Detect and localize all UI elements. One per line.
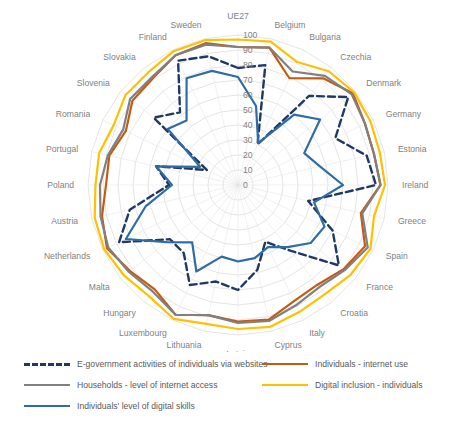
category-label-portugal: Portugal [46,144,78,154]
category-label-luxembourg: Luxembourg [119,328,167,338]
category-label-ue27: UE27 [227,11,249,21]
category-label-romania: Romania [56,109,91,119]
category-label-croatia: Croatia [340,308,368,318]
category-label-malta: Malta [89,282,110,292]
chart-legend: E-government activities of individuals v… [0,352,453,427]
r-axis-tick-label: 60 [243,90,253,100]
r-axis-tick-label: 0 [243,180,248,190]
legend-item-3[interactable]: Digital inclusion - individuals [262,381,422,390]
grid-spoke [121,91,238,185]
series-line-4 [126,71,343,272]
legend-label: Digital inclusion - individuals [315,381,422,390]
category-label-slovenia: Slovenia [77,78,110,88]
legend-swatch-icon [24,384,70,386]
category-label-slovakia: Slovakia [103,52,136,62]
category-label-italy: Italy [309,328,325,338]
category-label-poland: Poland [47,180,74,190]
category-label-sweden: Sweden [170,20,201,30]
grid-spoke [121,185,238,279]
legend-swatch-icon [24,363,70,366]
r-axis-tick-label: 30 [243,135,253,145]
category-label-france: France [366,282,393,292]
legend-label: Individuals - internet use [315,360,408,369]
category-label-bulgaria: Bulgaria [309,32,341,42]
legend-item-0[interactable]: E-government activities of individuals v… [24,360,268,369]
legend-item-1[interactable]: Individuals - internet use [262,360,408,369]
r-axis-tick-label: 40 [243,120,253,130]
r-axis-tick-label: 70 [243,75,253,85]
radar-svg: 0102030405060708090100UE27SwedenFinlandS… [0,0,453,352]
legend-label: E-government activities of individuals v… [77,360,268,369]
legend-label: Individuals' level of digital skills [77,402,195,411]
r-axis-tick-label: 10 [243,165,253,175]
category-label-austria: Austria [51,216,78,226]
category-label-estonia: Estonia [398,144,427,154]
category-label-greece: Greece [398,216,426,226]
legend-item-2[interactable]: Households - level of internet access [24,381,217,390]
legend-item-4[interactable]: Individuals' level of digital skills [24,402,195,411]
category-label-finland: Finland [139,32,167,42]
legend-swatch-icon [262,363,308,365]
r-axis-tick-label: 80 [243,60,253,70]
category-label-czechia: Czechia [340,52,371,62]
r-axis-tick-label: 20 [243,150,253,160]
category-label-germany: Germany [386,109,422,119]
category-label-lithuania: Lithuania [167,340,202,350]
category-label-cyprus: Cyprus [274,340,301,350]
grid-spoke [238,152,384,185]
legend-swatch-icon [24,405,70,407]
radar-chart-figure: 0102030405060708090100UE27SwedenFinlandS… [0,0,453,427]
legend-swatch-icon [262,384,308,386]
r-axis-tick-label: 50 [243,105,253,115]
category-label-spain: Spain [386,251,408,261]
chart-plot-area: 0102030405060708090100UE27SwedenFinlandS… [0,0,453,352]
category-label-belgium: Belgium [274,20,305,30]
category-label-netherlands: Netherlands [44,251,90,261]
category-label-denmark: Denmark [366,78,402,88]
category-label-hungary: Hungary [103,308,136,318]
category-label-ireland: Ireland [402,180,428,190]
r-axis-tick-label: 90 [243,45,253,55]
r-axis-tick-label: 100 [243,30,258,40]
legend-label: Households - level of internet access [77,381,217,390]
